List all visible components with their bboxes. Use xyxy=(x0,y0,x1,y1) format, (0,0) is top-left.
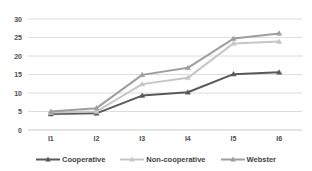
y-axis-tick-label: 20 xyxy=(14,53,22,60)
plot-area: 051015202530I1I2I3I4I5I6 xyxy=(0,0,312,150)
legend: CooperativeNon-cooperativeWebster xyxy=(0,151,312,167)
series-line-non-cooperative xyxy=(51,42,279,113)
legend-label: Webster xyxy=(247,155,276,164)
y-axis-tick-label: 15 xyxy=(14,71,22,78)
legend-line-marker-icon xyxy=(36,155,60,164)
y-axis-tick-label: 30 xyxy=(14,16,22,23)
series-line-webster xyxy=(51,33,279,111)
x-axis-tick-label: I3 xyxy=(139,135,145,142)
y-axis-tick-label: 0 xyxy=(18,127,22,134)
legend-label: Non-cooperative xyxy=(146,155,205,164)
legend-line-marker-icon xyxy=(221,155,245,164)
x-axis-tick-label: I2 xyxy=(94,135,100,142)
legend-label: Cooperative xyxy=(62,155,105,164)
y-axis-tick-label: 25 xyxy=(14,34,22,41)
legend-item-webster: Webster xyxy=(221,155,276,164)
x-axis-tick-label: I5 xyxy=(231,135,237,142)
legend-item-non-cooperative: Non-cooperative xyxy=(120,155,205,164)
x-axis-tick-label: I6 xyxy=(276,135,282,142)
y-axis-tick-label: 5 xyxy=(18,108,22,115)
y-axis-tick-label: 10 xyxy=(14,90,22,97)
x-axis-tick-label: I4 xyxy=(185,135,191,142)
line-chart: 051015202530I1I2I3I4I5I6 CooperativeNon-… xyxy=(0,0,312,171)
legend-line-marker-icon xyxy=(120,155,144,164)
legend-item-cooperative: Cooperative xyxy=(36,155,105,164)
x-axis-tick-label: I1 xyxy=(48,135,54,142)
